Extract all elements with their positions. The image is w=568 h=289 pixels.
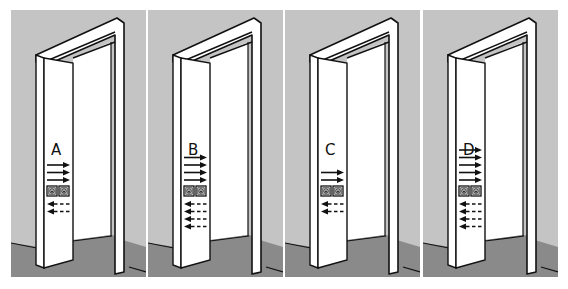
door-edge bbox=[36, 55, 44, 268]
door-leaf bbox=[44, 58, 73, 268]
door-leaf bbox=[456, 58, 485, 268]
door-illustration: C bbox=[285, 10, 420, 277]
door-label: A bbox=[51, 141, 62, 159]
door-label: C bbox=[325, 141, 335, 159]
door-edge bbox=[310, 55, 318, 268]
door-edge bbox=[448, 55, 456, 268]
door-panel-b: B bbox=[148, 10, 283, 277]
door-panel-d: D bbox=[423, 10, 558, 277]
door-panel-a: A bbox=[11, 10, 146, 277]
solid-arrows-right bbox=[47, 162, 70, 183]
door-leaf bbox=[181, 58, 210, 268]
door-illustration: D bbox=[423, 10, 558, 277]
door-illustration: A bbox=[11, 10, 146, 277]
door-leaf bbox=[318, 58, 347, 268]
door-illustration: B bbox=[148, 10, 283, 277]
door-panel-c: C bbox=[285, 10, 420, 277]
door-label: B bbox=[188, 141, 198, 159]
door-edge bbox=[173, 55, 181, 268]
